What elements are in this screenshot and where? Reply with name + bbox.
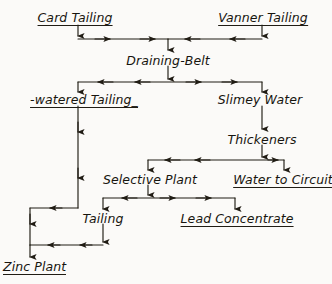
node-label-thickeners: Thickeners — [227, 133, 296, 146]
node-label-dewatered-tailing: -watered Tailing_ — [30, 93, 138, 108]
node-label-draining-belt: Draining-Belt — [126, 54, 210, 67]
flowchart-diagram: Card Tailing Vanner Tailing Draining-Bel… — [0, 0, 332, 284]
node-label-water-to-circuit: Water to Circuit — [233, 173, 332, 188]
node-label-slimey-water: Slimey Water — [218, 93, 302, 106]
node-label-tailing: Tailing — [83, 212, 124, 225]
node-label-vanner-tailing: Vanner Tailing — [218, 11, 308, 26]
node-label-card-tailing: Card Tailing — [38, 11, 113, 26]
node-label-selective-plant: Selective Plant — [103, 173, 197, 186]
node-label-lead-concentrate: Lead Concentrate — [181, 212, 294, 227]
node-label-zinc-plant: Zinc Plant — [3, 260, 66, 275]
